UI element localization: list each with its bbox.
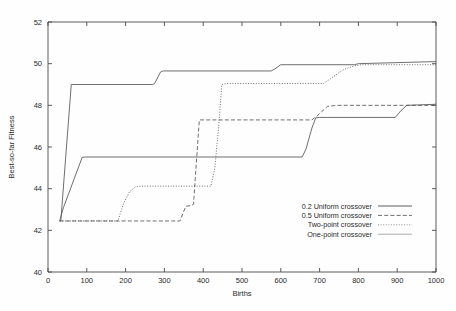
x-tick-label: 300 xyxy=(158,276,171,285)
x-tick-label: 500 xyxy=(236,276,249,285)
legend-label-1: 0.5 Uniform crossover xyxy=(302,211,373,220)
x-tick-label: 800 xyxy=(352,276,365,285)
series-line-0 xyxy=(60,62,436,221)
y-axis-ticks xyxy=(48,22,436,272)
x-tick-label: 600 xyxy=(275,276,288,285)
x-axis-ticks xyxy=(48,22,436,272)
x-tick-label: 700 xyxy=(313,276,326,285)
axis-frame xyxy=(48,22,436,272)
y-tick-label: 40 xyxy=(34,268,42,277)
y-tick-label: 42 xyxy=(34,226,42,235)
y-axis-tick-labels: 40424446485052 xyxy=(34,18,42,277)
y-axis-title: Best-so-far Fitness xyxy=(7,115,16,178)
chart-plot-area: 01002003004005006007008009001000 4042444… xyxy=(0,0,456,311)
legend-label-0: 0.2 Uniform crossover xyxy=(302,202,373,211)
chart-figure: 01002003004005006007008009001000 4042444… xyxy=(0,0,456,311)
y-tick-label: 46 xyxy=(34,143,42,152)
series-line-1 xyxy=(60,103,436,221)
series-line-2 xyxy=(60,65,436,221)
x-tick-label: 0 xyxy=(46,276,50,285)
x-tick-label: 400 xyxy=(197,276,210,285)
y-tick-label: 48 xyxy=(34,101,42,110)
x-tick-label: 100 xyxy=(81,276,94,285)
x-tick-label: 1000 xyxy=(428,276,445,285)
y-tick-label: 50 xyxy=(34,59,42,68)
y-tick-label: 44 xyxy=(34,184,42,193)
y-tick-label: 52 xyxy=(34,18,42,27)
x-axis-tick-labels: 01002003004005006007008009001000 xyxy=(46,276,444,285)
legend-label-2: Two-point crossover xyxy=(308,220,373,229)
x-tick-label: 200 xyxy=(119,276,132,285)
legend-label-3: One-point crossover xyxy=(307,230,372,239)
chart-legend: 0.2 Uniform crossover0.5 Uniform crossov… xyxy=(302,202,412,239)
data-series-group xyxy=(60,62,436,221)
x-axis-title: Births xyxy=(232,289,251,298)
x-tick-label: 900 xyxy=(391,276,404,285)
series-line-3 xyxy=(60,104,436,221)
